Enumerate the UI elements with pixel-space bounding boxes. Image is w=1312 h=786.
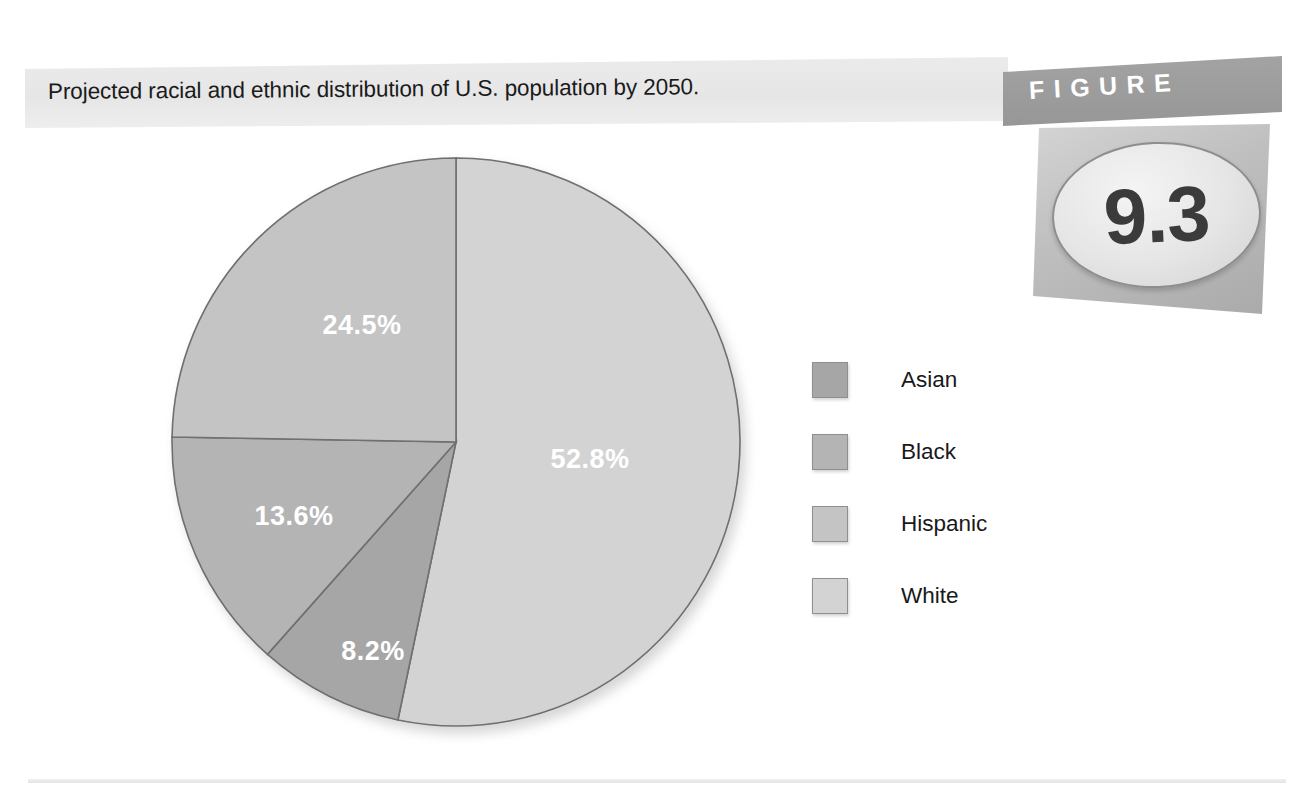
legend-label-asian: Asian — [901, 367, 957, 393]
legend-item-black[interactable]: Black — [812, 416, 1072, 488]
pie-chart-svg: 52.8%8.2%13.6%24.5% — [0, 0, 1312, 786]
pie-slice-hispanic[interactable] — [172, 158, 456, 442]
legend-swatch-asian — [812, 362, 848, 398]
pie-slice-label-black: 13.6% — [254, 501, 333, 531]
footer-rule — [28, 779, 1286, 783]
pie-slice-group — [172, 158, 740, 726]
pie-slice-label-hispanic: 24.5% — [322, 310, 401, 340]
legend-item-asian[interactable]: Asian — [812, 344, 1072, 416]
legend-label-hispanic: Hispanic — [901, 511, 987, 537]
legend-label-white: White — [901, 583, 959, 609]
legend-item-white[interactable]: White — [812, 560, 1072, 632]
pie-chart: 52.8%8.2%13.6%24.5% — [0, 0, 1312, 786]
legend-swatch-hispanic — [812, 506, 848, 542]
pie-slice-label-asian: 8.2% — [341, 636, 405, 666]
legend-swatch-white — [812, 578, 848, 614]
legend-swatch-black — [812, 434, 848, 470]
chart-legend: Asian Black Hispanic White — [812, 344, 1072, 632]
legend-label-black: Black — [901, 439, 956, 465]
pie-slice-label-white: 52.8% — [550, 444, 629, 474]
legend-item-hispanic[interactable]: Hispanic — [812, 488, 1072, 560]
